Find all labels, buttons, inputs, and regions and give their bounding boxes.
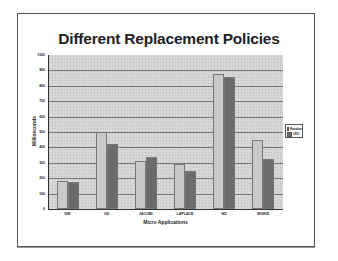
gridline xyxy=(48,132,283,133)
bar-dw-lru xyxy=(68,182,79,209)
x-tick-label: GD xyxy=(87,212,126,216)
bar-mgrid-lru xyxy=(263,159,274,209)
x-tick-label: MGRID xyxy=(244,212,283,216)
bar-laplace-random xyxy=(174,164,185,209)
y-tick-label: 500 xyxy=(36,130,45,134)
y-tick-label: 600 xyxy=(36,115,45,119)
bar-nd-random xyxy=(213,74,224,209)
chart-title: Different Replacement Policies xyxy=(0,30,338,48)
gridline xyxy=(48,86,283,87)
x-axis-label: Micro Applications xyxy=(48,219,283,225)
y-tick-label: 0 xyxy=(36,207,45,211)
bar-gd-lru xyxy=(107,144,118,209)
y-tick-label: 200 xyxy=(36,176,45,180)
bar-dw-random xyxy=(57,181,68,209)
y-tick-label: 700 xyxy=(36,99,45,103)
x-axis-line xyxy=(48,209,283,210)
legend-label: Random xyxy=(290,127,302,131)
legend-swatch xyxy=(287,132,292,137)
legend: RandomLRU xyxy=(285,124,303,138)
plot-area xyxy=(48,55,283,209)
gridline xyxy=(48,178,283,179)
legend-item: LRU xyxy=(287,132,301,138)
y-tick-label: 400 xyxy=(36,145,45,149)
y-tick-label: 100 xyxy=(36,192,45,196)
x-tick-label: JACOBI xyxy=(126,212,165,216)
legend-label: LRU xyxy=(293,132,299,136)
x-tick-label: DW xyxy=(48,212,87,216)
y-axis-line xyxy=(48,55,49,210)
y-axis-label: Milliseconds xyxy=(31,111,37,151)
x-tick-label: LAPLACE xyxy=(166,212,205,216)
bar-jacobi-random xyxy=(135,161,146,209)
legend-item: Random xyxy=(287,126,301,132)
gridline xyxy=(48,101,283,102)
gridline xyxy=(48,70,283,71)
y-tick-label: 300 xyxy=(36,161,45,165)
x-tick-label: ND xyxy=(205,212,244,216)
gridline xyxy=(48,117,283,118)
bar-gd-random xyxy=(96,132,107,209)
y-tick-label: 900 xyxy=(36,68,45,72)
legend-swatch xyxy=(287,127,289,132)
bar-jacobi-lru xyxy=(146,157,157,209)
gridline xyxy=(48,147,283,148)
bar-mgrid-random xyxy=(252,140,263,209)
gridline xyxy=(48,163,283,164)
y-tick-label: 1000 xyxy=(36,53,45,57)
gridline xyxy=(48,194,283,195)
bar-nd-lru xyxy=(224,77,235,209)
bar-laplace-lru xyxy=(185,171,196,210)
y-tick-label: 800 xyxy=(36,84,45,88)
